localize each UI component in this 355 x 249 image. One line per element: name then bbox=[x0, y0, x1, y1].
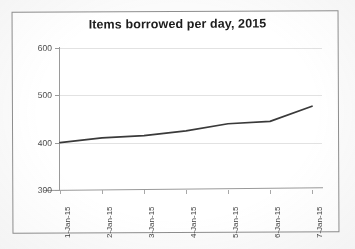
series-svg bbox=[0, 0, 355, 249]
chart-screenshot: Items borrowed per day, 2015 600 500 400… bbox=[0, 0, 355, 249]
data-series-items-borrowed bbox=[60, 106, 312, 142]
